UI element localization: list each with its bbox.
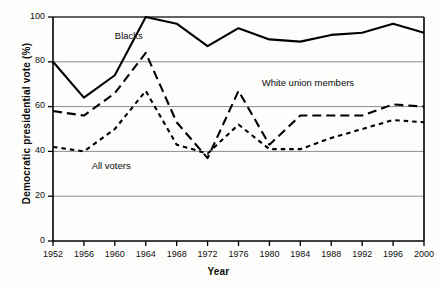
x-axis-title: Year [0, 266, 437, 277]
series-line-3 [53, 91, 424, 154]
chart-plot-area [0, 0, 437, 290]
series-line-2 [53, 53, 424, 158]
axis-ticks [48, 17, 424, 246]
series-annotation: Blacks [115, 30, 143, 41]
chart-figure: Democratic presidential vote (%) Year 02… [0, 0, 437, 290]
y-tick-label: 100 [9, 11, 45, 21]
series-annotation: All voters [92, 160, 131, 171]
series-line-1 [53, 17, 424, 98]
y-tick-label: 0 [9, 235, 45, 245]
y-tick-label: 80 [9, 55, 45, 65]
series-lines [53, 17, 424, 158]
series-annotation: White union members [262, 77, 354, 88]
y-tick-label: 60 [9, 100, 45, 110]
y-tick-label: 20 [9, 190, 45, 200]
y-tick-label: 40 [9, 145, 45, 155]
plot-frame [53, 17, 424, 241]
x-tick-label: 2000 [404, 249, 437, 259]
